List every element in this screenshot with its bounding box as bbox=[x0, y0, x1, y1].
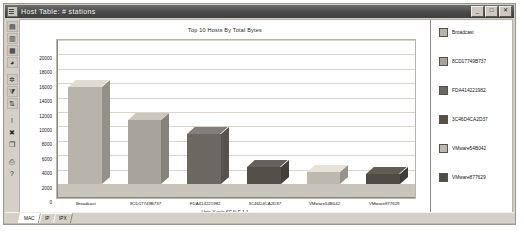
bar[interactable] bbox=[366, 174, 399, 184]
maximize-icon: □ bbox=[486, 7, 497, 14]
tab-label: IPX bbox=[59, 214, 67, 223]
plot-inner bbox=[57, 40, 415, 198]
y-tick-label: 12000 bbox=[39, 113, 52, 118]
print-icon[interactable]: ⎙ bbox=[7, 156, 18, 167]
tab-list: MACIPIPX bbox=[19, 213, 72, 223]
y-tick-label: 14000 bbox=[39, 99, 52, 104]
chart-column-icon[interactable]: ▦ bbox=[7, 45, 18, 56]
legend-swatch bbox=[439, 57, 448, 66]
y-tick-label: 10000 bbox=[39, 128, 52, 133]
legend-label: FDA414221982 bbox=[452, 88, 486, 93]
window-controls: _ □ ✕ bbox=[471, 6, 512, 17]
bar-face bbox=[307, 172, 340, 184]
table-view-icon[interactable]: ▤ bbox=[7, 21, 18, 32]
y-tick-label: 4000 bbox=[42, 171, 52, 176]
y-tick-label: 6000 bbox=[42, 156, 52, 161]
legend-item[interactable]: VMware54B042 bbox=[439, 144, 486, 153]
filter-icon[interactable]: ⧩ bbox=[7, 86, 18, 97]
legend-item[interactable]: Broadcast bbox=[439, 28, 474, 37]
plot-area bbox=[56, 39, 416, 199]
bar[interactable] bbox=[128, 120, 161, 184]
x-tick-label: VMware877629 bbox=[369, 201, 400, 206]
y-tick-label: 18000 bbox=[39, 70, 52, 75]
legend-label: 8CD17749B737 bbox=[452, 59, 486, 64]
tab-mac[interactable]: MAC bbox=[18, 213, 41, 223]
bar[interactable] bbox=[307, 172, 340, 184]
chart-title: Top 10 Hosts By Total Bytes bbox=[20, 27, 430, 33]
toolbar-separator bbox=[7, 151, 18, 155]
minimize-button[interactable]: _ bbox=[471, 6, 484, 17]
alarm-icon[interactable]: ! bbox=[7, 115, 18, 126]
help-icon[interactable]: ? bbox=[7, 168, 18, 179]
x-tick-label: 3C46D4CA2D37 bbox=[248, 201, 281, 206]
x-tick-label: 8CD17749B737 bbox=[130, 201, 161, 206]
y-axis-line bbox=[57, 40, 58, 198]
legend-label: VMware54B042 bbox=[452, 146, 486, 151]
y-axis-labels: 0200040006000800010000120001400016000180… bbox=[20, 39, 54, 199]
close-button[interactable]: ✕ bbox=[499, 6, 512, 17]
y-tick-label: 0 bbox=[49, 200, 52, 205]
chart-bar-icon[interactable]: ▥ bbox=[7, 33, 18, 44]
x-axis-labels: Broadcast8CD17749B737FDA4142219823C46D4C… bbox=[56, 201, 416, 210]
tab-ipx[interactable]: IPX bbox=[53, 213, 73, 223]
bar-side bbox=[221, 127, 229, 184]
chart-pane: Top 10 Hosts By Total Bytes 020004000600… bbox=[20, 20, 431, 223]
legend-item[interactable]: VMware877629 bbox=[439, 173, 486, 182]
sort-icon[interactable]: ⇅ bbox=[7, 98, 18, 109]
y-tick-label: 8000 bbox=[42, 142, 52, 147]
bar-top bbox=[307, 165, 348, 172]
bar[interactable] bbox=[247, 167, 280, 184]
legend-swatch bbox=[439, 144, 448, 153]
legend-swatch bbox=[439, 173, 448, 182]
toolbar-separator bbox=[7, 110, 18, 114]
bar-side bbox=[102, 80, 110, 184]
legend-label: 3C46D4CA2D37 bbox=[452, 117, 488, 122]
bar-series bbox=[57, 40, 415, 198]
host-table-window: Host Table: # stations _ □ ✕ ▤▥▦◕✲⧩⇅!✖❐⎙… bbox=[3, 3, 516, 225]
x-tick-label: FDA414221982 bbox=[190, 201, 221, 206]
tab-strip: MACIPIPX bbox=[5, 212, 514, 223]
legend-item[interactable]: 8CD17749B737 bbox=[439, 57, 486, 66]
legend-pane: Broadcast8CD17749B737FDA4142219823C46D4C… bbox=[431, 20, 512, 223]
bar-face bbox=[128, 120, 161, 184]
y-tick-label: 2000 bbox=[42, 185, 52, 190]
legend-swatch bbox=[439, 86, 448, 95]
bar-face bbox=[187, 134, 220, 184]
status-line bbox=[4, 223, 515, 224]
chart-client-area: Top 10 Hosts By Total Bytes 020004000600… bbox=[19, 19, 513, 224]
bar[interactable] bbox=[187, 134, 220, 184]
bar-side bbox=[161, 113, 169, 184]
tab-label: MAC bbox=[24, 214, 35, 223]
chart-pie-icon[interactable]: ◕ bbox=[7, 57, 18, 68]
close-icon: ✕ bbox=[500, 7, 511, 14]
maximize-button[interactable]: □ bbox=[485, 6, 498, 17]
x-axis-line bbox=[57, 197, 415, 198]
legend-label: VMware877629 bbox=[452, 175, 486, 180]
y-tick-label: 20000 bbox=[39, 56, 52, 61]
vertical-toolbar: ▤▥▦◕✲⧩⇅!✖❐⎙? bbox=[5, 19, 19, 224]
y-tick-label: 16000 bbox=[39, 84, 52, 89]
legend-item[interactable]: 3C46D4CA2D37 bbox=[439, 115, 488, 124]
tab-label: IP bbox=[45, 214, 50, 223]
settings-icon[interactable]: ✲ bbox=[7, 74, 18, 85]
bar[interactable] bbox=[68, 87, 101, 184]
x-tick-label: Broadcast bbox=[76, 201, 96, 206]
title-bar[interactable]: Host Table: # stations _ □ ✕ bbox=[5, 5, 514, 18]
window-title: Host Table: # stations bbox=[21, 8, 96, 15]
window-document-icon bbox=[7, 6, 18, 17]
minimize-icon: _ bbox=[472, 8, 483, 15]
delete-icon[interactable]: ✖ bbox=[7, 127, 18, 138]
legend-swatch bbox=[439, 115, 448, 124]
legend-swatch bbox=[439, 28, 448, 37]
application-window: Host Table: # stations _ □ ✕ ▤▥▦◕✲⧩⇅!✖❐⎙… bbox=[0, 0, 524, 236]
x-tick-label: VMware54B042 bbox=[309, 201, 340, 206]
bar-face bbox=[247, 167, 280, 184]
bar-face bbox=[366, 174, 399, 184]
legend-label: Broadcast bbox=[452, 30, 474, 35]
toolbar-separator bbox=[7, 69, 18, 73]
legend-item[interactable]: FDA414221982 bbox=[439, 86, 486, 95]
copy-icon[interactable]: ❐ bbox=[7, 139, 18, 150]
bar-face bbox=[68, 87, 101, 184]
